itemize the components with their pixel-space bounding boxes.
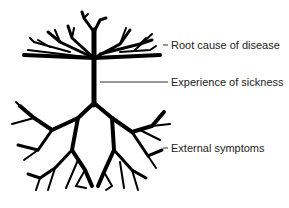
label-root-cause: Root cause of disease: [171, 39, 280, 51]
tree-diagram: Root cause of disease Experience of sick…: [0, 0, 289, 208]
label-external-symptoms: External symptoms: [171, 142, 265, 154]
label-experience-of-sickness: Experience of sickness: [171, 76, 284, 88]
tree-illustration: [0, 0, 289, 208]
